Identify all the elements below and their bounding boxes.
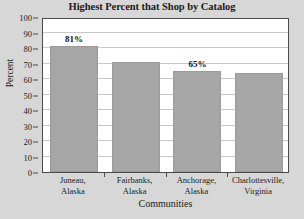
y-tick-label: 90	[24, 29, 33, 39]
chart-title: Highest Percent that Shop by Catalog	[0, 1, 304, 12]
y-axis: 0102030405060708090100	[0, 18, 38, 173]
bar-slot	[228, 19, 290, 172]
y-tick-label: 100	[19, 13, 32, 23]
x-tick-mark	[227, 173, 228, 177]
x-tick-label: Anchorage,Alaska	[166, 175, 228, 196]
x-tick-mark	[104, 173, 105, 177]
y-tick-mark	[33, 157, 38, 158]
y-tick-mark	[33, 49, 38, 50]
bar[interactable]	[112, 62, 160, 172]
bar-slot: 65%	[167, 19, 229, 172]
y-tick-mark	[33, 126, 38, 127]
y-tick-mark	[33, 111, 38, 112]
x-tick-label-line: Fairbanks,	[104, 175, 166, 186]
y-tick-mark	[33, 33, 38, 34]
x-tick-mark	[166, 173, 167, 177]
bar-value-label: 65%	[167, 59, 229, 69]
bar[interactable]	[235, 73, 283, 172]
y-tick-label: 50	[24, 91, 33, 101]
x-tick-label: Fairbanks,Alaska	[104, 175, 166, 196]
x-tick-label-line: Juneau,	[42, 175, 104, 186]
y-tick-mark	[33, 64, 38, 65]
bar-slot: 81%	[43, 19, 105, 172]
y-tick-mark	[33, 142, 38, 143]
x-tick-label: Charlottesville,Virginia	[227, 175, 289, 196]
bar-value-label: 81%	[43, 34, 105, 44]
bar[interactable]	[50, 46, 98, 172]
bar-slot	[105, 19, 167, 172]
x-axis: Juneau,AlaskaFairbanks,AlaskaAnchorage,A…	[42, 175, 289, 199]
x-tick-label-line: Alaska	[166, 186, 228, 197]
bars-layer: 81%65%	[43, 19, 288, 172]
y-tick-mark	[33, 95, 38, 96]
x-tick-label-line: Alaska	[42, 186, 104, 197]
x-tick-label-line: Charlottesville,	[227, 175, 289, 186]
y-tick-label: 30	[24, 122, 33, 132]
y-tick-label: 10	[24, 153, 33, 163]
y-tick-mark	[33, 173, 38, 174]
y-tick-mark	[33, 80, 38, 81]
x-tick-label-line: Anchorage,	[166, 175, 228, 186]
x-tick-label: Juneau,Alaska	[42, 175, 104, 196]
chart-figure: Highest Percent that Shop by Catalog Per…	[0, 0, 304, 219]
y-tick-label: 80	[24, 44, 33, 54]
bar[interactable]	[173, 71, 221, 172]
y-tick-label: 0	[28, 168, 32, 178]
y-tick-label: 70	[24, 60, 33, 70]
y-tick-label: 60	[24, 75, 33, 85]
y-tick-mark	[33, 18, 38, 19]
plot-area: 81%65%	[42, 18, 289, 173]
x-tick-label-line: Alaska	[104, 186, 166, 197]
y-tick-label: 40	[24, 106, 33, 116]
y-tick-label: 20	[24, 137, 33, 147]
x-axis-title: Communities	[42, 198, 289, 209]
x-tick-label-line: Virginia	[227, 186, 289, 197]
